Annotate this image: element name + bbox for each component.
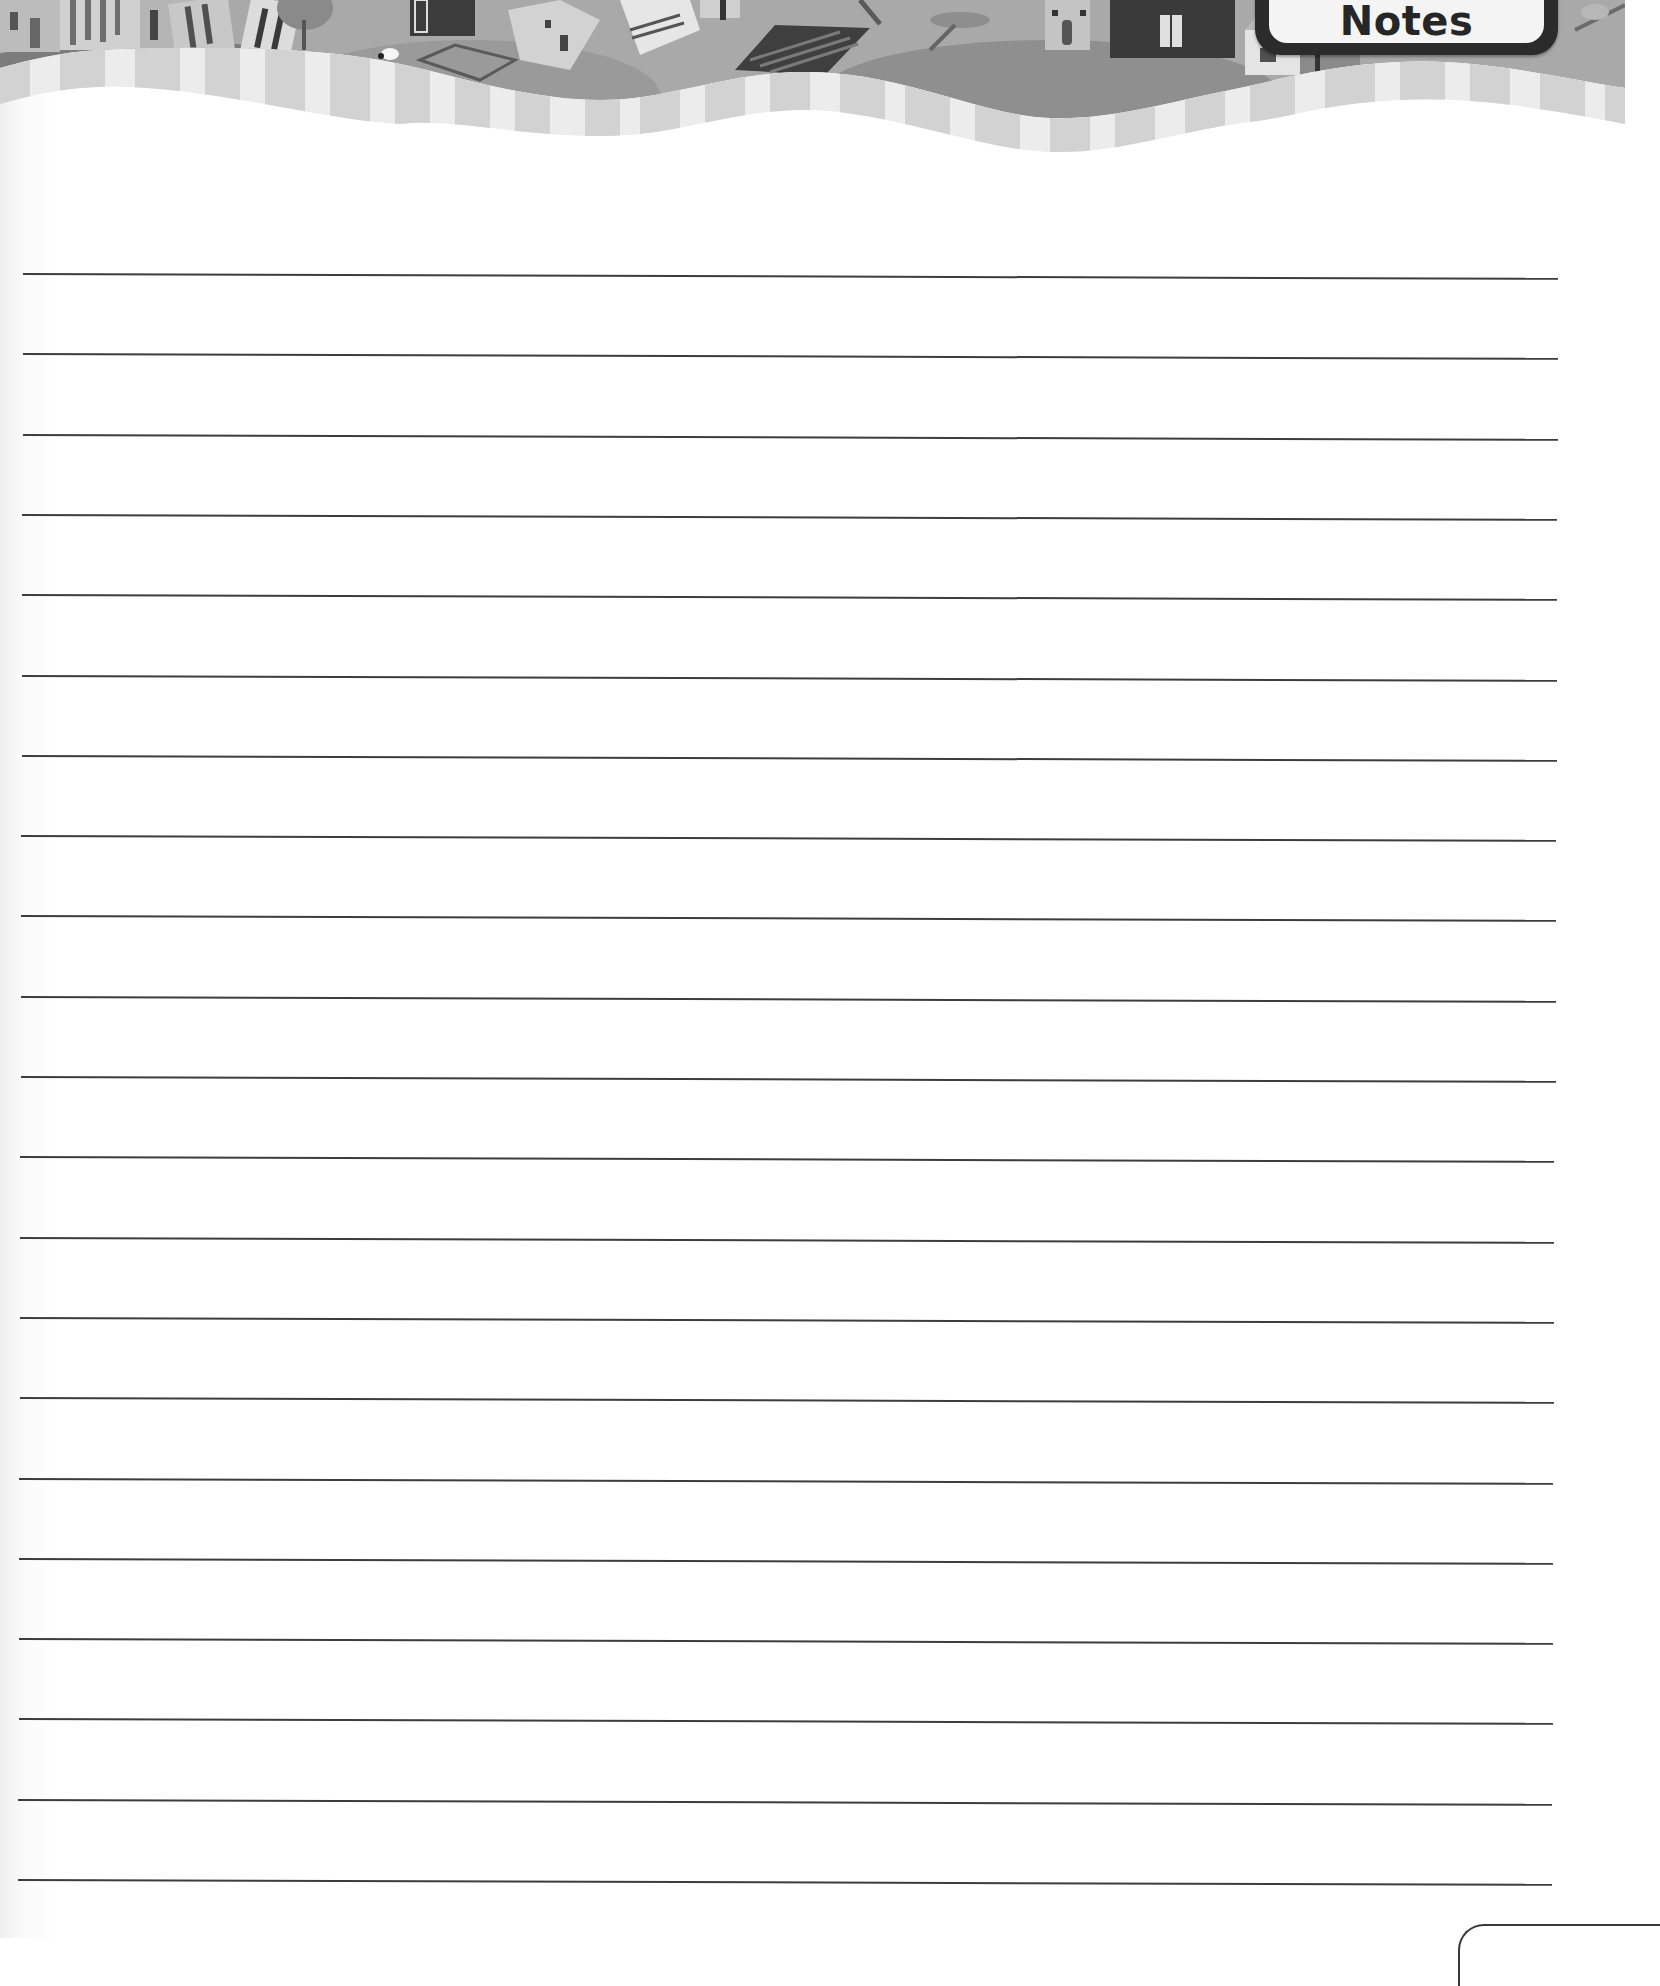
- writing-line: [22, 514, 1557, 521]
- writing-line: [21, 996, 1556, 1003]
- page-number-tab: [1458, 1924, 1660, 1986]
- writing-line: [19, 1397, 1553, 1404]
- writing-line: [21, 915, 1556, 922]
- writing-line: [20, 1156, 1554, 1163]
- writing-line: [18, 1718, 1552, 1725]
- writing-line: [19, 1638, 1553, 1645]
- writing-line: [22, 594, 1557, 601]
- writing-line: [21, 755, 1556, 762]
- writing-line: [21, 835, 1556, 842]
- writing-line: [19, 1478, 1553, 1485]
- writing-line: [19, 1558, 1553, 1565]
- writing-line: [22, 434, 1557, 441]
- writing-line: [22, 675, 1557, 682]
- writing-line: [23, 353, 1558, 360]
- writing-line: [23, 273, 1558, 280]
- writing-line: [18, 1799, 1552, 1806]
- writing-line: [20, 1317, 1554, 1324]
- writing-line: [20, 1076, 1554, 1083]
- writing-line: [18, 1879, 1552, 1886]
- writing-line: [20, 1237, 1554, 1244]
